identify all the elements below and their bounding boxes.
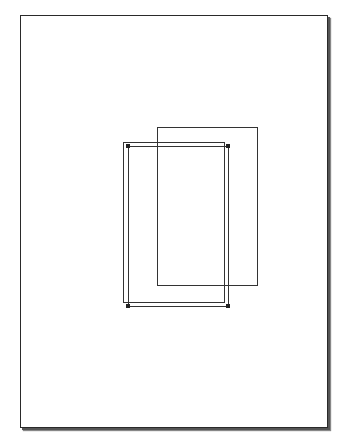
selection-handle-bottom-left[interactable] (126, 304, 130, 308)
selection-handle-bottom-right[interactable] (226, 304, 230, 308)
rectangle-shape-selected[interactable] (128, 146, 229, 307)
selection-handle-top-left[interactable] (126, 144, 130, 148)
selection-handle-top-right[interactable] (226, 144, 230, 148)
